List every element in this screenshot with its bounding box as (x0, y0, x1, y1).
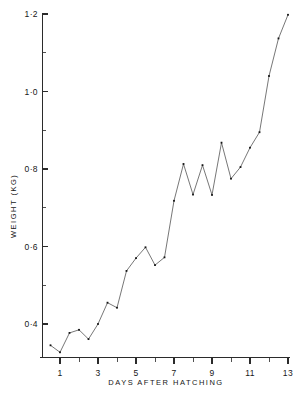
data-point-16 (202, 164, 204, 166)
data-point-8 (126, 270, 128, 272)
x-tick-label-2: 5 (133, 368, 138, 378)
x-tick-label-1: 3 (95, 368, 100, 378)
data-point-18 (221, 142, 223, 144)
data-point-1 (59, 351, 61, 353)
data-point-14 (183, 163, 185, 165)
data-point-22 (259, 131, 261, 133)
data-point-9 (135, 257, 137, 259)
x-tick-label-3: 7 (171, 368, 176, 378)
x-axis-tick-labels: 135791113 (57, 368, 293, 378)
data-point-15 (192, 194, 194, 196)
data-point-17 (211, 194, 213, 196)
y-axis-tick-labels: 0·40·60·81·01·2 (25, 9, 39, 329)
y-axis-title: WEIGHT (KG) (9, 174, 18, 238)
weight-vs-days-line-chart: 0·40·60·81·01·2 WEIGHT (KG) 135791113 DA… (0, 0, 302, 399)
y-axis-group: 0·40·60·81·01·2 WEIGHT (KG) (9, 9, 48, 357)
data-point-10 (145, 246, 147, 248)
data-point-25 (287, 14, 289, 16)
data-series-group (50, 14, 289, 353)
x-axis-title: DAYS AFTER HATCHING (108, 378, 223, 387)
chart-figure: 0·40·60·81·01·2 WEIGHT (KG) 135791113 DA… (0, 0, 302, 399)
x-axis-major-ticks (60, 358, 288, 365)
data-point-12 (164, 256, 166, 258)
data-point-20 (240, 166, 242, 168)
y-tick-label-4: 1·2 (25, 9, 39, 19)
data-point-24 (278, 38, 280, 40)
y-tick-label-3: 1·0 (25, 87, 39, 97)
data-point-19 (230, 178, 232, 180)
x-tick-label-5: 11 (245, 368, 255, 378)
data-point-5 (97, 323, 99, 325)
weight-series-line (51, 15, 289, 353)
weight-series-markers (50, 14, 289, 353)
data-point-7 (116, 307, 118, 309)
x-tick-label-4: 9 (209, 368, 214, 378)
data-point-0 (50, 344, 52, 346)
data-point-23 (268, 75, 270, 77)
data-point-11 (154, 264, 156, 266)
data-point-2 (69, 332, 71, 334)
data-point-13 (173, 200, 175, 202)
data-point-4 (88, 338, 90, 340)
data-point-3 (78, 329, 80, 331)
y-tick-label-0: 0·4 (25, 319, 39, 329)
y-axis-major-ticks (43, 14, 49, 324)
x-tick-label-6: 13 (283, 368, 293, 378)
y-tick-label-2: 0·8 (25, 164, 39, 174)
data-point-21 (249, 147, 251, 149)
x-tick-label-0: 1 (57, 368, 62, 378)
y-tick-label-1: 0·6 (25, 242, 39, 252)
data-point-6 (107, 302, 109, 304)
x-axis-group: 135791113 DAYS AFTER HATCHING (40, 358, 293, 388)
